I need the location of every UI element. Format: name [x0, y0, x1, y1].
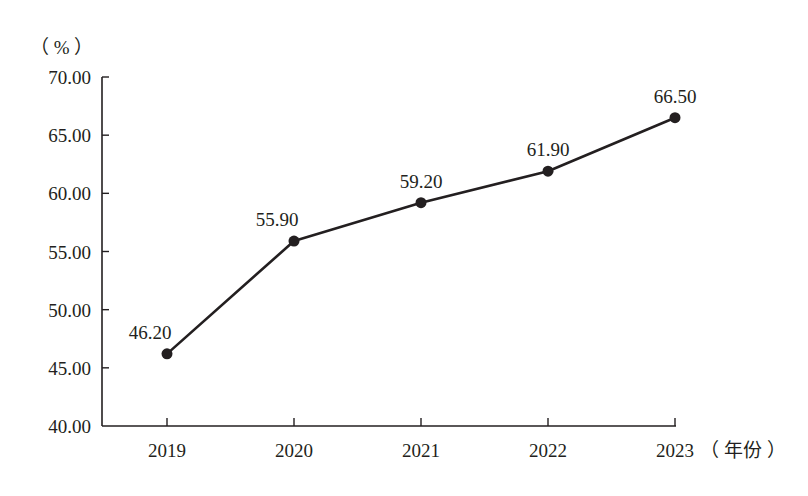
- y-axis-unit-label: （ % ）: [30, 37, 93, 58]
- data-point-marker: [416, 197, 427, 208]
- data-point-label: 55.90: [256, 209, 299, 230]
- x-axis-ticks: 20192020202120222023: [148, 418, 694, 461]
- data-point-label: 61.90: [527, 139, 570, 160]
- x-tick-label: 2023: [656, 440, 694, 461]
- y-tick-label: 50.00: [48, 300, 91, 321]
- axes: [102, 77, 676, 426]
- x-tick-label: 2020: [275, 440, 313, 461]
- x-tick-label: 2022: [529, 440, 567, 461]
- y-tick-label: 40.00: [48, 416, 91, 437]
- data-point-label: 59.20: [400, 171, 443, 192]
- y-tick-label: 45.00: [48, 358, 91, 379]
- y-axis-ticks: 40.0045.0050.0055.0060.0065.0070.00: [48, 67, 109, 437]
- x-tick-label: 2019: [148, 440, 186, 461]
- series-line: [167, 118, 675, 354]
- y-tick-label: 70.00: [48, 67, 91, 88]
- data-point-marker: [289, 236, 300, 247]
- data-point-marker: [670, 112, 681, 123]
- data-point-label: 46.20: [129, 322, 172, 343]
- line-chart: （ % ） 40.0045.0050.0055.0060.0065.0070.0…: [0, 0, 808, 496]
- data-labels: 46.2055.9059.2061.9066.50: [129, 86, 697, 343]
- y-tick-label: 55.00: [48, 242, 91, 263]
- data-point-marker: [162, 348, 173, 359]
- x-tick-label: 2021: [402, 440, 440, 461]
- data-point-label: 66.50: [654, 86, 697, 107]
- data-point-marker: [543, 166, 554, 177]
- y-tick-label: 60.00: [48, 183, 91, 204]
- x-axis-unit-label: （ 年份 ）: [700, 440, 786, 461]
- y-tick-label: 65.00: [48, 125, 91, 146]
